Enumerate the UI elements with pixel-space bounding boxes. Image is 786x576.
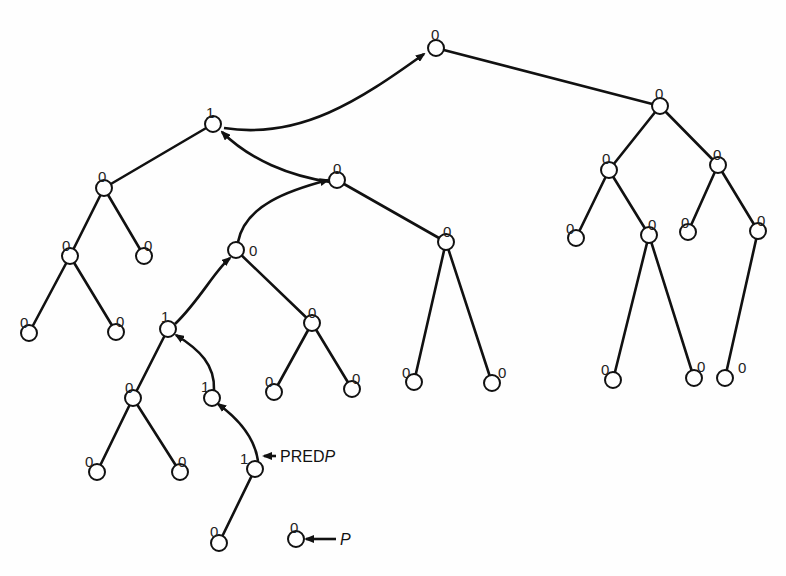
tree-edge — [312, 323, 352, 389]
tree-node — [247, 461, 263, 477]
p-label: P — [340, 531, 351, 548]
tree-edge — [337, 180, 446, 242]
tree-edge — [219, 469, 255, 543]
node-tag: 0 — [431, 26, 439, 43]
tree-svg: 000000000001000000000010000100100 PREDP … — [0, 0, 786, 576]
node-tag: 0 — [648, 216, 656, 233]
pred-p-label: PREDP — [280, 448, 335, 465]
node-tag: 0 — [498, 364, 506, 381]
thread-arrow — [238, 180, 328, 242]
threaded-tree-diagram: 000000000001000000000010000100100 PREDP … — [0, 0, 786, 576]
node-tag: 1 — [240, 450, 248, 467]
node-tag: 0 — [265, 373, 273, 390]
node-tag: 0 — [681, 214, 689, 231]
tree-edge — [576, 170, 609, 238]
node-tag: 0 — [601, 361, 609, 378]
node-tag: 1 — [201, 378, 209, 395]
node-tag: 0 — [85, 453, 93, 470]
node-tag: 1 — [206, 104, 214, 121]
node-tag: 0 — [757, 212, 765, 229]
tree-edge — [274, 323, 312, 392]
node-tag: 1 — [161, 308, 169, 325]
thread-arrow — [222, 132, 330, 182]
thread-arrow — [218, 404, 258, 461]
tree-edge — [446, 242, 492, 383]
tree-edge — [97, 398, 133, 472]
node-tag: 0 — [697, 358, 705, 375]
tree-edge — [133, 329, 168, 398]
thread-arrow — [224, 54, 424, 130]
node-tag: 0 — [249, 242, 257, 259]
node-tag: 0 — [308, 304, 316, 321]
node-tag: 0 — [443, 223, 451, 240]
tree-edge — [660, 106, 718, 165]
node-tag: 0 — [566, 220, 574, 237]
tree-edge — [104, 124, 213, 188]
tree-edge — [414, 242, 446, 382]
tree-edge — [29, 256, 70, 333]
tree-edge — [70, 188, 104, 256]
thread-arrow — [175, 258, 230, 324]
node-tag: 0 — [210, 523, 218, 540]
tree-edge — [649, 235, 694, 378]
tree-edge — [436, 48, 660, 106]
tree-edge — [609, 106, 660, 170]
node-tag: 0 — [98, 168, 106, 185]
node-tag: 0 — [20, 314, 28, 331]
node-tag: 0 — [352, 370, 360, 387]
tree-nodes — [21, 40, 766, 551]
tree-node — [228, 242, 244, 258]
node-tag: 0 — [402, 364, 410, 381]
node-tag: 0 — [738, 359, 746, 376]
tree-edge — [133, 398, 180, 472]
node-tag: 0 — [178, 453, 186, 470]
tree-edge — [725, 231, 758, 378]
tree-edge — [718, 165, 758, 231]
tree-edge — [688, 165, 718, 232]
node-tag: 0 — [602, 150, 610, 167]
node-tag: 0 — [713, 146, 721, 163]
node-tag: 0 — [144, 237, 152, 254]
tree-edge — [613, 235, 649, 380]
node-tag: 0 — [333, 160, 341, 177]
node-tag: 0 — [125, 379, 133, 396]
node-tag: 0 — [655, 85, 663, 102]
node-tag: 0 — [116, 313, 124, 330]
tree-edge — [236, 250, 312, 323]
tree-edge — [70, 256, 116, 332]
node-tag: 0 — [290, 519, 298, 536]
tree-edge — [104, 188, 144, 256]
tree-edges — [29, 48, 758, 543]
pointer-arrows — [264, 456, 336, 539]
node-tag: 0 — [62, 237, 70, 254]
tree-edge — [609, 170, 649, 235]
tree-node — [717, 370, 733, 386]
